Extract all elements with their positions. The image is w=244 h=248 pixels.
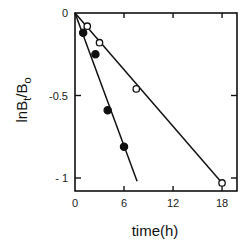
open-circle-point xyxy=(133,86,139,92)
fit-line xyxy=(75,13,137,181)
x-tick-label: 0 xyxy=(72,197,78,209)
open-circle-point xyxy=(96,40,102,46)
x-tick-label: 12 xyxy=(167,197,179,209)
y-axis-title: lnBt/Bo xyxy=(13,77,33,122)
filled-circle-point xyxy=(104,107,111,114)
x-axis-title: time(h) xyxy=(132,222,179,239)
open-circle-point xyxy=(219,180,225,186)
fit-line xyxy=(75,13,222,183)
y-tick-label: -0.5 xyxy=(49,90,68,102)
x-tick-label: 18 xyxy=(216,197,228,209)
fit-lines xyxy=(75,13,222,183)
chart: 0612180-0.5- 1 time(h) lnBt/Bo xyxy=(0,0,244,248)
x-tick-label: 6 xyxy=(121,197,127,209)
filled-circle-point xyxy=(92,51,99,58)
y-tick-label: 0 xyxy=(62,7,68,19)
filled-circle-point xyxy=(80,29,87,36)
filled-circle-point xyxy=(120,143,127,150)
y-tick-label: - 1 xyxy=(55,172,68,184)
open-circle-point xyxy=(84,23,90,29)
